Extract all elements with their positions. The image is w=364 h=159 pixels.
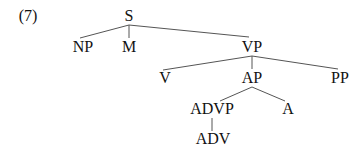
syntax-tree-diagram: (7) S NP M VP V AP PP ADVP A ADV [0,0,364,159]
tree-edges [0,0,364,159]
edge-s-vp [129,25,249,37]
example-number: (7) [19,8,38,24]
node-v: V [159,70,171,86]
node-ap: AP [242,70,262,86]
node-a: A [282,101,294,117]
node-advp: ADVP [190,101,234,117]
edge-vp-pp [252,56,338,69]
node-pp: PP [331,70,349,86]
node-s: S [125,8,134,24]
edge-ap-advp [220,87,252,101]
edge-s-np [80,25,129,38]
node-vp: VP [242,39,262,55]
node-m: M [122,39,136,55]
edge-vp-v [163,56,252,70]
node-adv: ADV [196,131,231,147]
node-np: NP [73,39,93,55]
edge-ap-a [252,87,285,101]
